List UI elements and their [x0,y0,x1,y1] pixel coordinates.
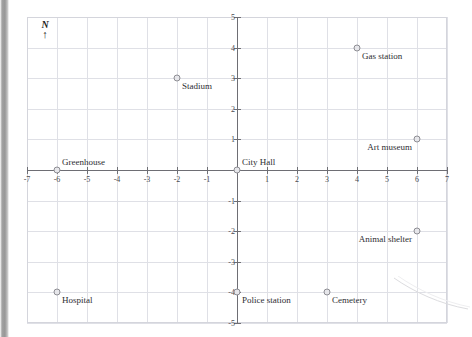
x-axis-tick-label: 7 [445,175,449,184]
y-axis-tick [234,139,241,140]
map-point-marker[interactable] [414,136,421,143]
x-axis-tick [447,167,448,174]
map-point-label: Cemetery [332,295,367,305]
map-point-label: Stadium [182,81,212,91]
y-axis-tick [234,262,241,263]
map-point-marker[interactable] [234,167,241,174]
y-axis-tick [234,17,241,18]
x-axis-tick-label: 3 [325,175,329,184]
map-point-label: Animal shelter [359,234,412,244]
y-axis-tick-label: -1 [225,196,235,205]
y-axis-tick-label: 5 [225,13,235,22]
x-axis-tick [177,167,178,174]
y-axis-tick [234,78,241,79]
x-axis-tick-label: 2 [295,175,299,184]
x-axis-tick-label: 5 [385,175,389,184]
map-point-marker[interactable] [414,228,421,235]
x-axis-tick [327,167,328,174]
scan-spine-artifact [0,0,9,337]
x-axis-tick [147,167,148,174]
y-axis-tick [234,48,241,49]
map-point-marker[interactable] [54,289,61,296]
x-axis-tick-label: 6 [415,175,419,184]
x-axis-tick-label: -4 [114,175,121,184]
x-axis-tick-label: -7 [24,175,31,184]
map-point-marker[interactable] [354,44,361,51]
x-axis-tick [297,167,298,174]
x-axis-tick-label: -3 [144,175,151,184]
x-axis-tick-label: -2 [174,175,181,184]
map-point-label: Gas station [362,51,402,61]
map-point-label: City Hall [242,157,275,167]
y-axis-tick [234,201,241,202]
x-axis-tick [117,167,118,174]
y-axis-tick-label: 1 [225,135,235,144]
y-axis-tick-label: -5 [225,319,235,328]
y-axis-tick [234,323,241,324]
y-axis-tick [234,231,241,232]
x-axis-tick-label: -5 [84,175,91,184]
map-point-label: Greenhouse [62,157,105,167]
x-axis-tick [357,167,358,174]
x-axis-tick [417,167,418,174]
y-axis-tick-label: 3 [225,74,235,83]
north-indicator: N↑ [34,20,56,40]
map-point-marker[interactable] [324,289,331,296]
x-axis-tick [267,167,268,174]
coordinate-plane: -7-6-5-4-3-2-11234567-5-4-3-2-112345Stad… [27,17,447,323]
map-point-marker[interactable] [234,289,241,296]
y-axis-tick-label: -2 [225,227,235,236]
y-axis-tick-label: 4 [225,43,235,52]
map-point-label: Police station [242,295,291,305]
x-axis-tick [27,167,28,174]
y-axis-tick-label: 2 [225,104,235,113]
map-point-label: Hospital [62,295,93,305]
x-axis-tick-label: -6 [54,175,61,184]
x-axis-tick-label: 1 [265,175,269,184]
x-axis-tick-label: 4 [355,175,359,184]
y-axis-tick-label: -3 [225,257,235,266]
map-point-marker[interactable] [54,167,61,174]
north-arrow-icon: ↑ [34,29,56,40]
map-point-label: Art museum [367,142,412,152]
x-axis-tick [387,167,388,174]
map-point-marker[interactable] [174,75,181,82]
x-axis-tick [87,167,88,174]
x-axis-tick-label: -1 [204,175,211,184]
x-axis-tick [207,167,208,174]
y-axis-tick [234,109,241,110]
